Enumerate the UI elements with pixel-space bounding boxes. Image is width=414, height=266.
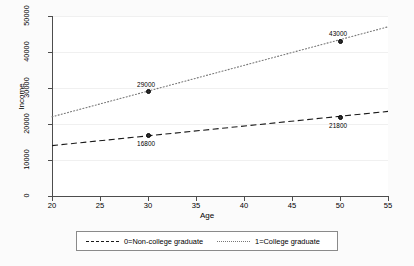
data-point-label: 29000 [137, 81, 155, 88]
y-tick-label: 0 [22, 176, 31, 216]
x-axis-line [52, 196, 389, 197]
legend-label-college: 1=College graduate [255, 237, 320, 246]
x-tick-label: 40 [229, 201, 259, 210]
chart-root: 01000020000300004000050000 2025303540455… [0, 0, 414, 266]
chart-legend: 0=Non-college graduate 1=College graduat… [76, 231, 338, 251]
x-tick-label: 55 [373, 201, 403, 210]
x-tick-label: 50 [325, 201, 355, 210]
x-tick-label: 45 [277, 201, 307, 210]
x-axis-title: Age [0, 211, 414, 220]
y-tick-label: 10000 [22, 140, 31, 180]
legend-swatch-dashed-icon [86, 241, 119, 242]
data-point-label: 21800 [329, 122, 347, 129]
legend-label-non-college: 0=Non-college graduate [124, 237, 203, 246]
data-point-marker[interactable] [338, 39, 343, 44]
y-tick-label: 40000 [22, 32, 31, 72]
y-tick-label: 50000 [22, 0, 31, 36]
data-point-label: 16800 [137, 140, 155, 147]
y-axis-title: Income [17, 83, 26, 109]
data-point-label: 43000 [329, 30, 347, 37]
x-tick-label: 35 [181, 201, 211, 210]
x-tick-label: 30 [133, 201, 163, 210]
legend-entry-college[interactable]: 1=College graduate [203, 232, 320, 250]
data-point-marker[interactable] [146, 89, 151, 94]
legend-entry-non-college[interactable]: 0=Non-college graduate [77, 232, 203, 250]
data-point-marker[interactable] [146, 133, 151, 138]
legend-swatch-dotted-icon [217, 241, 250, 242]
data-point-marker[interactable] [338, 115, 343, 120]
x-tick-label: 20 [37, 201, 67, 210]
x-tick-label: 25 [85, 201, 115, 210]
